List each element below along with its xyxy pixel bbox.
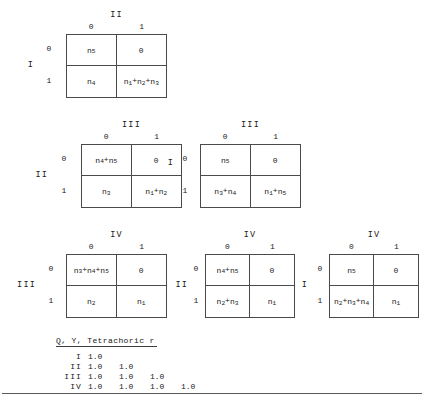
matrix-m4-col-label-1: 1 [117, 242, 168, 251]
correlation-table: I1.0II1.01.0III1.01.01.0IV1.01.01.01.0 [56, 351, 212, 391]
matrix-m3-row-label-0: 0 [178, 154, 192, 163]
matrix-m1-left-variable-label: I [12, 60, 34, 70]
matrix-m1-row-label-1: 1 [42, 76, 56, 85]
matrix-m5-col-label-0: 0 [205, 242, 250, 251]
correlation-row: III1.01.01.0 [56, 371, 212, 381]
matrix-m4-row-label-0: 0 [44, 264, 58, 273]
matrix-m4-row-label-1: 1 [44, 296, 58, 305]
matrix-m5-top-variable-label: IV [205, 230, 295, 240]
matrix-m1-cell-1-0: n4 [67, 66, 117, 97]
matrix-m1-col-label-1: 1 [117, 22, 168, 31]
matrix-m2-top-variable-label: III [81, 120, 182, 130]
matrix-m1-cell-0-0: n5 [67, 35, 117, 66]
footer-rule [2, 393, 422, 394]
correlation-value: 1.0 [88, 381, 119, 391]
correlation-row-label: IV [56, 381, 88, 391]
matrix-m6-cell-1-1: n1 [374, 286, 418, 317]
correlation-row-label: II [56, 361, 88, 371]
correlation-value [150, 351, 181, 361]
matrix-m6-cell-1-0: n2+n3+n4 [330, 286, 374, 317]
matrix-m4-left-variable-label: III [6, 280, 36, 290]
correlation-value [150, 361, 181, 371]
correlation-value: 1.0 [181, 381, 212, 391]
matrix-m2-grid: n4+n5 0 n3 n1+n2 [81, 144, 182, 208]
matrix-m6-row-label-0: 0 [313, 264, 327, 273]
correlation-panel: Q, Y, Tetrachoric r I1.0II1.01.0III1.01.… [56, 330, 212, 391]
correlation-title: Q, Y, Tetrachoric r [56, 336, 157, 347]
correlation-value [119, 351, 150, 361]
matrix-m4-col-label-0: 0 [66, 242, 117, 251]
correlation-value: 1.0 [88, 371, 119, 381]
matrix-m4-cell-0-1: 0 [117, 255, 167, 286]
matrix-m4-grid: n3+n4+n5 0 n2 n1 [66, 254, 167, 318]
correlation-row: I1.0 [56, 351, 212, 361]
matrix-m5-cell-0-1: 0 [250, 255, 294, 286]
correlation-value: 1.0 [119, 381, 150, 391]
correlation-value: 1.0 [150, 371, 181, 381]
matrix-m3-grid: n5 0 n3+n4 n1+n5 [200, 144, 301, 208]
matrix-m3-row-label-1: 1 [178, 186, 192, 195]
matrix-m6-col-label-1: 1 [374, 242, 419, 251]
matrix-m4-cell-1-0: n2 [67, 286, 117, 317]
matrix-m1-row-label-0: 0 [42, 44, 56, 53]
matrix-m5-row-label-1: 1 [189, 296, 203, 305]
matrix-m5-grid: n4+n5 0 n2+n3 n1 [205, 254, 295, 318]
matrix-m6-col-label-0: 0 [329, 242, 374, 251]
matrix-m1-col-label-0: 0 [66, 22, 117, 31]
correlation-value [181, 361, 212, 371]
matrix-m6-cell-0-1: 0 [374, 255, 418, 286]
correlation-row-label: I [56, 351, 88, 361]
matrix-m4-top-variable-label: IV [66, 230, 167, 240]
matrix-m2-row-label-0: 0 [57, 154, 71, 163]
matrix-m2-cell-1-1: n1+n2 [132, 176, 182, 207]
matrix-m4-cell-1-1: n1 [117, 286, 167, 317]
matrix-m1-grid: n5 0 n4 n1+n2+n3 [66, 34, 167, 98]
matrix-m2-row-label-1: 1 [57, 186, 71, 195]
matrix-m5-row-label-0: 0 [189, 264, 203, 273]
matrix-m5-left-variable-label: II [164, 280, 188, 290]
matrix-m3-cell-1-1: n1+n5 [251, 176, 301, 207]
matrix-m6-row-label-1: 1 [313, 296, 327, 305]
matrix-m4-cell-0-0: n3+n4+n5 [67, 255, 117, 286]
matrix-m6-grid: n5 0 n2+n3+n4 n1 [329, 254, 419, 318]
matrix-m6-top-variable-label: IV [329, 230, 419, 240]
matrix-m1-cell-0-1: 0 [117, 35, 167, 66]
matrix-m3-col-label-1: 1 [251, 132, 302, 141]
correlation-row: IV1.01.01.01.0 [56, 381, 212, 391]
correlation-row: II1.01.0 [56, 361, 212, 371]
matrix-m3-top-variable-label: III [200, 120, 301, 130]
correlation-value [181, 371, 212, 381]
matrix-m6-cell-0-0: n5 [330, 255, 374, 286]
matrix-m1-top-variable-label: II [66, 10, 167, 20]
correlation-row-label: III [56, 371, 88, 381]
matrix-m6-left-variable-label: I [292, 280, 308, 290]
correlation-value: 1.0 [88, 361, 119, 371]
matrix-m2-cell-1-0: n3 [82, 176, 132, 207]
figure-canvas: II 0 1 I 0 1 n5 0 n4 n1+n2+n3 III 0 1 II… [0, 0, 424, 406]
correlation-value: 1.0 [119, 371, 150, 381]
matrix-m2-cell-0-0: n4+n5 [82, 145, 132, 176]
matrix-m3-cell-0-1: 0 [251, 145, 301, 176]
correlation-value [181, 351, 212, 361]
correlation-value: 1.0 [88, 351, 119, 361]
matrix-m2-left-variable-label: II [22, 170, 48, 180]
matrix-m3-cell-1-0: n3+n4 [201, 176, 251, 207]
matrix-m2-col-label-1: 1 [132, 132, 183, 141]
matrix-m3-col-label-0: 0 [200, 132, 251, 141]
matrix-m3-left-variable-label: I [158, 158, 174, 168]
matrix-m3-cell-0-0: n5 [201, 145, 251, 176]
matrix-m5-cell-1-1: n1 [250, 286, 294, 317]
matrix-m1-cell-1-1: n1+n2+n3 [117, 66, 167, 97]
matrix-m2-col-label-0: 0 [81, 132, 132, 141]
correlation-value: 1.0 [150, 381, 181, 391]
correlation-value: 1.0 [119, 361, 150, 371]
matrix-m5-col-label-1: 1 [250, 242, 295, 251]
correlation-table-body: I1.0II1.01.0III1.01.01.0IV1.01.01.01.0 [56, 351, 212, 391]
matrix-m5-cell-0-0: n4+n5 [206, 255, 250, 286]
matrix-m5-cell-1-0: n2+n3 [206, 286, 250, 317]
